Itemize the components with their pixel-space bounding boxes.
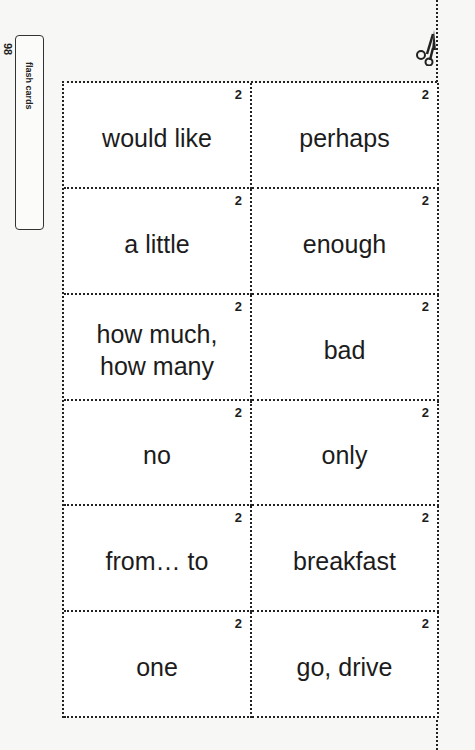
card-number: 2 [422, 616, 429, 631]
flash-card[interactable]: 2 would like [64, 83, 252, 189]
card-number: 2 [422, 405, 429, 420]
flash-card[interactable]: 2 go, drive [252, 612, 439, 718]
card-text: from… to [96, 539, 219, 577]
card-text: only [312, 433, 378, 471]
card-text: how much, how many [72, 312, 242, 382]
card-number: 2 [235, 87, 242, 102]
card-text: bad [314, 328, 376, 366]
card-number: 2 [235, 616, 242, 631]
flash-card[interactable]: 2 how much, how many [64, 295, 252, 401]
card-number: 2 [235, 193, 242, 208]
flash-card[interactable]: 2 one [64, 612, 252, 718]
card-number: 2 [422, 510, 429, 525]
flash-card[interactable]: 2 enough [252, 189, 439, 295]
flash-card[interactable]: 2 a little [64, 189, 252, 295]
card-text: enough [293, 222, 396, 260]
page-number: 98 [2, 43, 14, 55]
scissors-icon [412, 28, 440, 66]
flash-card[interactable]: 2 no [64, 401, 252, 507]
card-number: 2 [235, 405, 242, 420]
card-number: 2 [422, 299, 429, 314]
flash-card[interactable]: 2 only [252, 401, 439, 507]
card-number: 2 [422, 193, 429, 208]
flash-card[interactable]: 2 breakfast [252, 506, 439, 612]
flash-card[interactable]: 2 perhaps [252, 83, 439, 189]
flash-card[interactable]: 2 bad [252, 295, 439, 401]
card-number: 2 [235, 299, 242, 314]
card-text: go, drive [287, 645, 403, 683]
flash-card[interactable]: 2 from… to [64, 506, 252, 612]
card-text: breakfast [283, 539, 406, 577]
card-text: no [133, 433, 181, 471]
card-number: 2 [422, 87, 429, 102]
card-text: perhaps [289, 116, 399, 154]
card-text: a little [114, 222, 199, 260]
card-text: one [126, 645, 188, 683]
flash-card-grid: 2 would like 2 perhaps 2 a little 2 enou… [62, 81, 437, 718]
card-number: 2 [235, 510, 242, 525]
section-label: flash cards [24, 62, 34, 110]
card-text: would like [92, 116, 222, 154]
